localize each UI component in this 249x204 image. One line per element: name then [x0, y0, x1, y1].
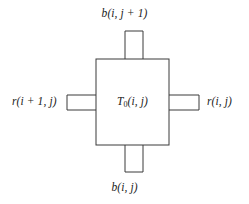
port-right-rect: [168, 95, 199, 110]
port-bottom-rect: [125, 145, 143, 172]
center-block-label: T0(i, j): [96, 96, 169, 109]
figure-canvas: b(i, j + 1) r(i + 1, j) T0(i, j) r(i, j)…: [0, 0, 249, 204]
port-left-label: r(i + 1, j): [12, 96, 57, 108]
port-right-label: r(i, j): [207, 96, 232, 108]
port-top-rect: [125, 31, 143, 60]
center-block-label-suffix: (i, j): [128, 95, 148, 107]
port-bottom-label: b(i, j): [0, 182, 249, 194]
port-left-rect: [67, 95, 97, 110]
port-top-label: b(i, j + 1): [0, 8, 249, 20]
